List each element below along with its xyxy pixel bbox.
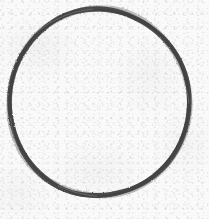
drawing-layer	[0, 0, 209, 219]
circle-drawing-svg	[0, 0, 209, 219]
drawing-canvas	[0, 0, 209, 219]
